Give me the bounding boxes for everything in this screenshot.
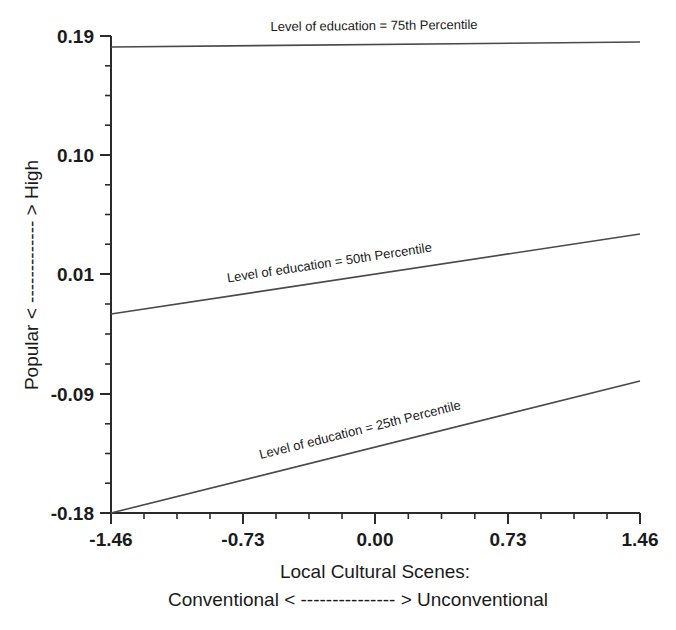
y-tick-label-3: -0.09 <box>51 384 94 405</box>
x-tick-label-3: 0.73 <box>490 529 527 550</box>
x-axis-title-line1: Local Cultural Scenes: <box>280 561 470 582</box>
series-label-75th-percentile: Level of education = 75th Percentile <box>270 17 477 34</box>
x-tick-label-0: -1.46 <box>89 529 132 550</box>
x-tick-label-2: 0.00 <box>357 529 394 550</box>
y-axis-title: Popular < ------------- > High <box>21 160 42 390</box>
y-tick-label-0: 0.19 <box>57 26 94 47</box>
x-tick-label-1: -0.73 <box>221 529 264 550</box>
x-tick-label-4: 1.46 <box>622 529 659 550</box>
y-tick-label-2: 0.01 <box>57 264 94 285</box>
chart-figure: 0.19 0.10 0.01 -0.09 -0.18 <box>0 0 676 630</box>
interaction-plot-svg: 0.19 0.10 0.01 -0.09 -0.18 <box>0 0 676 630</box>
x-axis-title-line2: Conventional < --------------- > Unconve… <box>168 589 548 610</box>
y-tick-label-1: 0.10 <box>57 145 94 166</box>
y-tick-label-4: -0.18 <box>51 503 94 524</box>
